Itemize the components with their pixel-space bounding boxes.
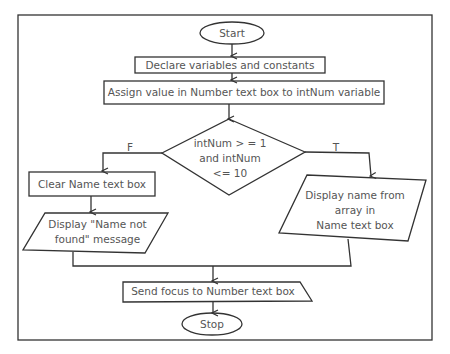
decision-label-1: intNum > = 1 (180, 136, 280, 151)
notfound-label-2: found" message (35, 232, 160, 247)
declare-label: Declare variables and constants (135, 58, 325, 73)
stop-label: Stop (182, 317, 242, 332)
notfound-label-1: Display "Name not (35, 217, 160, 232)
focus-label: Send focus to Number text box (123, 284, 303, 299)
display-label-2: array in (295, 203, 415, 218)
decision-label-3: <= 10 (180, 166, 280, 181)
clear-label: Clear Name text box (29, 177, 155, 192)
display-label-1: Display name from (295, 188, 415, 203)
start-label: Start (200, 26, 264, 41)
true-branch-label: T (330, 140, 342, 155)
decision-label-2: and intNum (180, 151, 280, 166)
false-branch-label: F (124, 140, 136, 155)
display-label-3: Name text box (295, 218, 415, 233)
assign-label: Assign value in Number text box to intNu… (104, 85, 384, 100)
